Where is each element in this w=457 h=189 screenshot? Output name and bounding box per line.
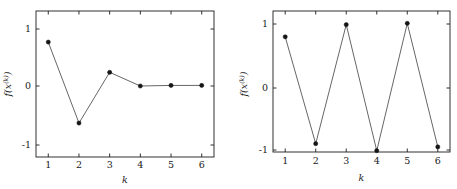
svg-text:-1: -1: [22, 139, 31, 150]
svg-text:0: 0: [25, 80, 31, 91]
right-plot-svg: 123456-101kf(x(k)): [228, 0, 457, 189]
svg-text:6: 6: [199, 159, 205, 170]
svg-text:k: k: [122, 174, 128, 185]
left-axes: [36, 11, 214, 157]
svg-text:1: 1: [25, 23, 31, 34]
svg-text:-1: -1: [259, 144, 268, 155]
svg-text:6: 6: [435, 155, 441, 166]
chart-panel-right: 123456-101kf(x(k)): [228, 0, 457, 189]
svg-text:1: 1: [262, 18, 268, 29]
svg-text:3: 3: [107, 159, 113, 170]
svg-text:1: 1: [282, 155, 288, 166]
svg-text:1: 1: [45, 159, 51, 170]
svg-text:0: 0: [262, 82, 268, 93]
svg-text:3: 3: [343, 155, 349, 166]
svg-text:2: 2: [76, 159, 82, 170]
svg-text:2: 2: [313, 155, 319, 166]
svg-text:4: 4: [137, 159, 143, 170]
left-plot-svg: 123456-101kf(x(k)): [0, 0, 228, 189]
left-axis-labels: 123456-101kf(x(k)): [2, 23, 205, 185]
figure-root: 123456-101kf(x(k)) 123456-101kf(x(k)): [0, 0, 457, 189]
right-data-series: [283, 21, 440, 153]
right-axis-labels: 123456-101kf(x(k)): [238, 18, 441, 183]
svg-text:5: 5: [168, 159, 174, 170]
svg-text:k: k: [359, 172, 365, 183]
svg-text:f(x(k)): f(x(k)): [238, 71, 249, 97]
chart-panel-left: 123456-101kf(x(k)): [0, 0, 228, 189]
svg-text:5: 5: [404, 155, 410, 166]
right-axes: [273, 11, 450, 152]
svg-text:4: 4: [374, 155, 380, 166]
left-data-series: [46, 40, 204, 125]
svg-text:f(x(k)): f(x(k)): [2, 71, 13, 97]
